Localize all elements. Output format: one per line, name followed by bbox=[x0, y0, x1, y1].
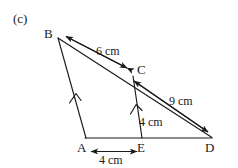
part-label: (c) bbox=[13, 12, 27, 25]
measurement-label-ce: 4 cm bbox=[139, 116, 163, 128]
parallel-mark-ce bbox=[131, 105, 143, 115]
vertex-label-e: E bbox=[137, 141, 145, 154]
measurement-label-cd: 9 cm bbox=[169, 95, 193, 107]
figure-canvas bbox=[0, 0, 238, 168]
triangle-outline bbox=[58, 38, 212, 138]
vertex-label-c: C bbox=[137, 63, 146, 76]
vertex-label-b: B bbox=[44, 27, 53, 40]
geometry-figure: (c) B C D A E 6 cm 9 cm 4 cm 4 cm bbox=[0, 0, 238, 168]
measurement-label-bc: 6 cm bbox=[96, 45, 120, 57]
measurement-label-ae: 4 cm bbox=[99, 154, 123, 166]
vertex-label-d: D bbox=[205, 141, 214, 154]
vertex-label-a: A bbox=[77, 141, 86, 154]
